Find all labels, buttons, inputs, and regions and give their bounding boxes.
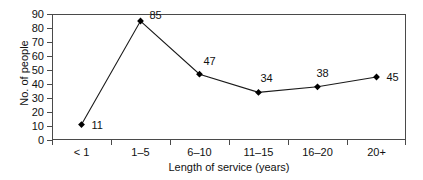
y-tick-label: 20 bbox=[24, 106, 44, 118]
y-tick-label: 40 bbox=[24, 78, 44, 90]
x-tick-mark bbox=[111, 140, 112, 145]
data-point-value-label: 38 bbox=[317, 67, 329, 79]
x-category-label: 1–5 bbox=[131, 146, 149, 158]
x-category-label: 6–10 bbox=[187, 146, 211, 158]
data-point-value-label: 47 bbox=[204, 55, 216, 67]
plot-area bbox=[52, 14, 406, 140]
x-tick-mark bbox=[170, 140, 171, 145]
chart-figure: No. of people 0102030405060708090 < 11–5… bbox=[0, 0, 423, 180]
x-tick-mark bbox=[288, 140, 289, 145]
y-tick-label: 80 bbox=[24, 22, 44, 34]
data-point-value-label: 85 bbox=[150, 9, 162, 21]
x-tick-mark bbox=[229, 140, 230, 145]
x-category-label: 11–15 bbox=[244, 146, 274, 158]
x-tick-mark bbox=[405, 140, 406, 145]
x-tick-mark bbox=[347, 140, 348, 145]
y-tick-label: 90 bbox=[24, 8, 44, 20]
x-category-label: 16–20 bbox=[302, 146, 333, 158]
y-tick-label: 60 bbox=[24, 50, 44, 62]
y-tick-label: 70 bbox=[24, 36, 44, 48]
x-category-label: < 1 bbox=[74, 146, 90, 158]
x-axis-title: Length of service (years) bbox=[52, 161, 406, 173]
y-tick-label: 0 bbox=[24, 134, 44, 146]
x-tick-mark bbox=[52, 140, 53, 145]
x-category-label: 20+ bbox=[367, 146, 386, 158]
data-point-value-label: 11 bbox=[92, 119, 103, 131]
y-tick-label: 10 bbox=[24, 120, 44, 132]
data-point-value-label: 34 bbox=[261, 72, 273, 84]
y-tick-label: 30 bbox=[24, 92, 44, 104]
y-tick-label: 50 bbox=[24, 64, 44, 76]
data-point-value-label: 45 bbox=[387, 71, 399, 83]
